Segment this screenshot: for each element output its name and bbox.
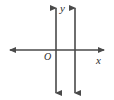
y-axis-label: y	[60, 3, 65, 14]
origin-label: O	[44, 52, 51, 62]
graph-figure: y x O	[0, 0, 114, 100]
x-axis-label: x	[96, 55, 101, 66]
coordinate-plane-svg	[0, 0, 114, 100]
